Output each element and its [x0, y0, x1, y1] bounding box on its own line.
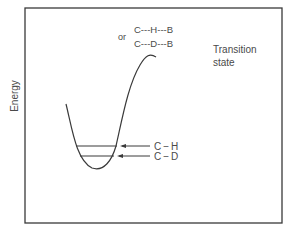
arrowhead-c-h — [120, 144, 126, 148]
transition-state-label-line2: state — [213, 57, 235, 68]
energy-axis-label: Energy — [9, 80, 20, 112]
structure-c-h-b: C---H---B — [134, 24, 173, 35]
transition-state-label-line1: Transition — [213, 44, 257, 55]
diagram-canvas: Energy C − H C − D or C---H---B C---D---… — [0, 0, 288, 231]
connector-or: or — [118, 32, 126, 42]
arrowhead-c-d — [117, 154, 123, 158]
energy-diagram: Energy C − H C − D or C---H---B C---D---… — [0, 0, 288, 231]
structure-c-d-b: C---D---B — [134, 38, 173, 49]
potential-energy-curve — [66, 55, 156, 169]
level-label-c-d: C − D — [154, 151, 178, 162]
